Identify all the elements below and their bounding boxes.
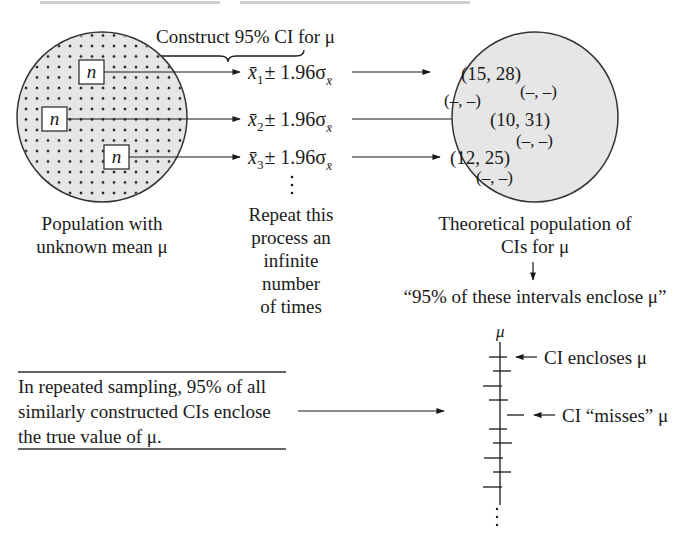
- ci-interval: (10, 31): [490, 109, 550, 131]
- repeat-caption-line: number: [236, 272, 346, 295]
- ci-placeholder: (–, –): [444, 91, 481, 110]
- repeat-caption-line: infinite: [236, 249, 346, 272]
- svg-text:x̄2± 1.96σx̄: x̄2± 1.96σx̄: [247, 108, 332, 135]
- ci-interval: (15, 28): [461, 63, 521, 85]
- ci-population-caption: Theoretical population of CIs for μ: [420, 212, 650, 258]
- ci-statement: “95% of these intervals enclose μ”: [390, 285, 680, 308]
- annotation-encloses: CI encloses μ: [544, 347, 647, 368]
- ellipsis-vertical: [291, 176, 294, 195]
- population-caption-line2: unknown mean μ: [12, 235, 192, 258]
- repeat-caption-line: Repeat this: [236, 203, 346, 226]
- ci-caption-line2: CIs for μ: [420, 235, 650, 258]
- sample-size-label: n: [112, 146, 122, 167]
- population-caption-line1: Population with: [12, 212, 192, 235]
- ci-placeholder: (–, –): [520, 82, 557, 101]
- ci-interval: (12, 25): [450, 147, 510, 169]
- axis-mu-label: μ: [495, 322, 505, 341]
- svg-text:x̄1± 1.96σx̄: x̄1± 1.96σx̄: [247, 61, 332, 88]
- annotation-misses: CI “misses” μ: [562, 405, 668, 426]
- summary-box: In repeated sampling, 95% of all similar…: [18, 374, 298, 449]
- summary-line3: the true value of μ.: [18, 424, 298, 449]
- formula-3: x̄3± 1.96σx̄: [247, 146, 440, 173]
- summary-line2: similarly constructed CIs enclose: [18, 399, 298, 424]
- formula-2: x̄2± 1.96σx̄: [247, 108, 482, 135]
- svg-text:x̄3± 1.96σx̄: x̄3± 1.96σx̄: [247, 146, 332, 173]
- axis-ellipsis: [496, 508, 498, 526]
- formula-1: x̄1± 1.96σx̄: [247, 61, 430, 88]
- summary-line1: In repeated sampling, 95% of all: [18, 374, 298, 399]
- header-brace-label: Construct 95% CI for μ: [156, 26, 335, 47]
- ci-axis: μ CI encloses μ CI “misses” μ: [483, 322, 668, 526]
- population-caption: Population with unknown mean μ: [12, 212, 192, 258]
- ci-placeholder: (–, –): [476, 168, 513, 187]
- ci-statement-text: “95% of these intervals enclose μ”: [390, 285, 680, 308]
- repeat-caption-line: of times: [236, 295, 346, 318]
- ci-caption-line1: Theoretical population of: [420, 212, 650, 235]
- sample-size-label: n: [87, 61, 97, 82]
- sample-size-label: n: [50, 108, 60, 129]
- repeat-caption: Repeat this process an infinite number o…: [236, 203, 346, 318]
- repeat-caption-line: process an: [236, 226, 346, 249]
- ci-placeholder: (–, –): [516, 131, 553, 150]
